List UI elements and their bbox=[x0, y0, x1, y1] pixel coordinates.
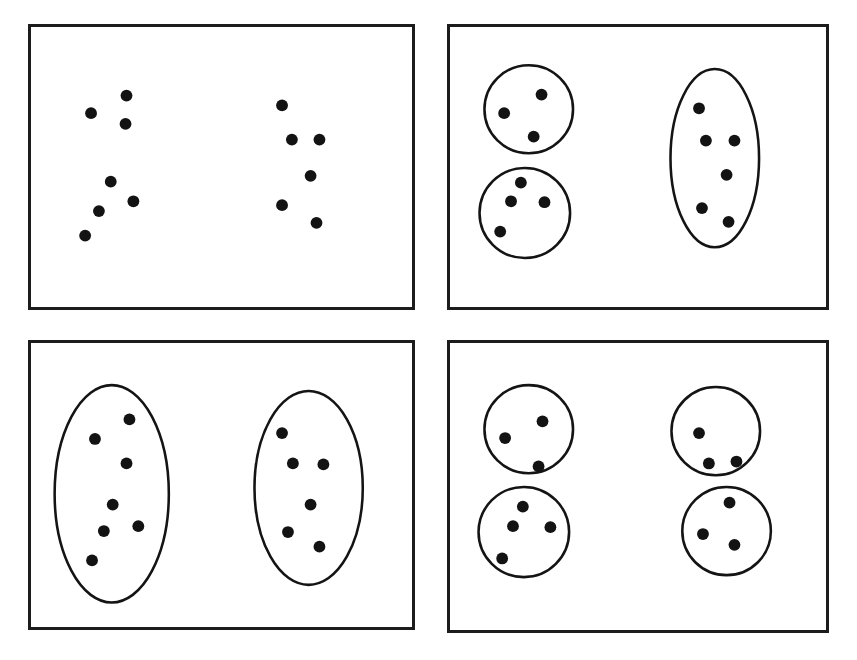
data-point bbox=[700, 135, 712, 147]
panel-bottom-right bbox=[447, 340, 829, 633]
data-point bbox=[507, 520, 519, 532]
cluster-boundary-1 bbox=[55, 385, 169, 602]
data-point bbox=[729, 135, 741, 147]
data-point bbox=[276, 99, 288, 111]
data-point bbox=[528, 131, 540, 143]
data-point bbox=[314, 541, 326, 553]
data-point bbox=[107, 499, 119, 511]
cluster-boundary-2 bbox=[479, 487, 570, 577]
cluster-boundary-1 bbox=[484, 385, 573, 473]
data-point bbox=[98, 525, 110, 537]
cluster-boundary-3 bbox=[671, 387, 760, 475]
cluster-boundary-3 bbox=[670, 69, 759, 247]
cluster-boundary-2 bbox=[254, 391, 362, 585]
data-point bbox=[723, 216, 735, 228]
data-point bbox=[544, 521, 556, 533]
data-point bbox=[536, 89, 548, 101]
panel-bottom-left bbox=[28, 340, 415, 630]
data-point bbox=[105, 176, 117, 188]
data-point bbox=[276, 427, 288, 439]
data-point bbox=[499, 432, 511, 444]
data-point bbox=[311, 217, 323, 229]
data-point bbox=[121, 458, 133, 470]
panel-top-right-canvas bbox=[450, 27, 826, 307]
figure-root bbox=[0, 0, 857, 660]
cluster-boundary-1 bbox=[484, 65, 573, 153]
data-point bbox=[693, 102, 705, 114]
data-point bbox=[89, 433, 101, 445]
data-point bbox=[286, 134, 298, 146]
data-point bbox=[533, 461, 545, 473]
data-point bbox=[703, 458, 715, 470]
data-point bbox=[93, 205, 105, 217]
data-point bbox=[724, 497, 736, 509]
data-point bbox=[729, 539, 741, 551]
data-point bbox=[696, 202, 708, 214]
data-point bbox=[314, 134, 326, 146]
data-point bbox=[515, 177, 527, 189]
data-point bbox=[505, 195, 517, 207]
data-point bbox=[305, 170, 317, 182]
data-point bbox=[282, 526, 294, 538]
data-point bbox=[517, 501, 529, 513]
data-point bbox=[79, 230, 91, 242]
data-point bbox=[127, 195, 139, 207]
panel-top-right bbox=[447, 24, 829, 310]
panel-top-left bbox=[28, 24, 415, 310]
data-point bbox=[276, 199, 288, 211]
data-point bbox=[85, 107, 97, 119]
data-point bbox=[124, 414, 136, 426]
data-point bbox=[287, 458, 299, 470]
data-point bbox=[86, 555, 98, 567]
panel-bottom-right-canvas bbox=[450, 343, 826, 630]
data-point bbox=[132, 520, 144, 532]
data-point bbox=[496, 553, 508, 565]
data-point bbox=[539, 196, 551, 208]
data-point bbox=[494, 226, 506, 238]
data-point bbox=[120, 118, 132, 130]
panel-grid bbox=[0, 0, 857, 660]
data-point bbox=[721, 169, 733, 181]
data-point bbox=[537, 415, 549, 427]
data-point bbox=[731, 456, 743, 468]
panel-top-left-canvas bbox=[31, 27, 412, 307]
data-point bbox=[317, 459, 329, 471]
data-point bbox=[693, 427, 705, 439]
data-point bbox=[121, 90, 133, 102]
data-point bbox=[305, 499, 317, 511]
data-point bbox=[498, 107, 510, 119]
data-point bbox=[697, 528, 709, 540]
panel-bottom-left-canvas bbox=[31, 343, 412, 627]
